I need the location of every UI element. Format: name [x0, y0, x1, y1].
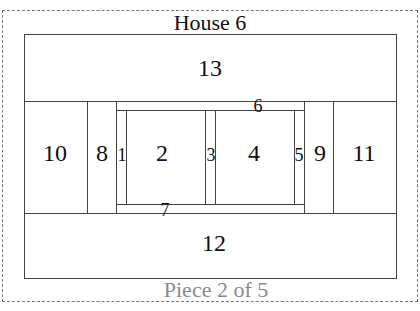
strip-6-bottom-edge: [116, 110, 304, 111]
piece-9-label: 9: [314, 141, 326, 165]
piece-13-label: 13: [198, 56, 222, 80]
divider-bottom: [24, 213, 397, 214]
piece-11-label: 11: [352, 141, 375, 165]
piece-7-label: 7: [161, 201, 170, 219]
divider-9-11: [333, 101, 334, 213]
divider-10-8: [87, 101, 88, 213]
piece-count-caption: Piece 2 of 5: [164, 279, 268, 301]
divider-top: [24, 101, 397, 102]
house-title: House 6: [174, 12, 247, 34]
piece-10-label: 10: [43, 141, 67, 165]
piece-1-label: 1: [118, 146, 127, 164]
piece-2-label: 2: [156, 141, 168, 165]
piece-3-label: 3: [207, 146, 216, 164]
piece-4-label: 4: [248, 141, 260, 165]
piece-5-label: 5: [295, 146, 304, 164]
piece-12-label: 12: [202, 231, 226, 255]
piece-6-label: 6: [254, 97, 263, 115]
divider-5-9: [304, 101, 305, 213]
piece-8-label: 8: [96, 141, 108, 165]
strip-7-top-edge: [116, 204, 304, 205]
